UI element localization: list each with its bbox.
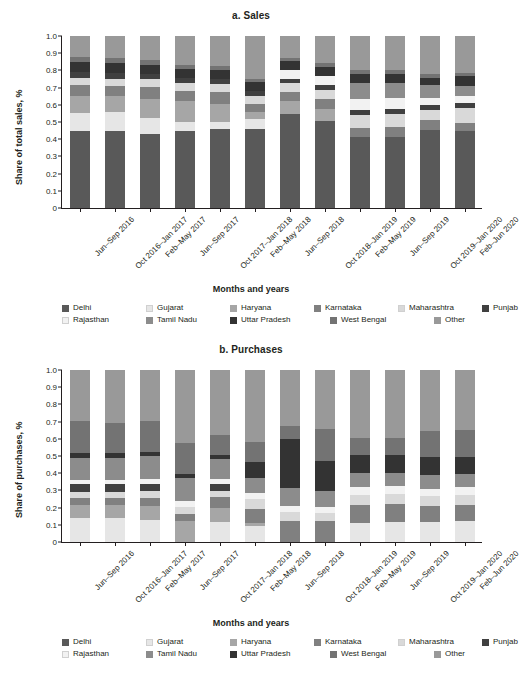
bar-segment[interactable] [175,443,195,474]
stacked-bar[interactable] [175,370,195,542]
bar-segment[interactable] [315,76,335,85]
bar-segment[interactable] [245,96,265,104]
bar-segment[interactable] [315,429,335,461]
bar-segment[interactable] [105,96,125,112]
bar-segment[interactable] [140,491,160,498]
bar-segment[interactable] [210,508,230,522]
bar-segment[interactable] [350,128,370,138]
bar-segment[interactable] [350,455,370,473]
bar-segment[interactable] [280,83,300,92]
legend-item-other[interactable]: Other [434,316,465,324]
bar-segment[interactable] [350,83,370,99]
bar-segment[interactable] [245,478,265,493]
bar-segment[interactable] [140,498,160,506]
bar-segment[interactable] [140,99,160,118]
bar-segment[interactable] [210,370,230,435]
bar-segment[interactable] [210,522,230,542]
bar-segment[interactable] [280,70,300,79]
bar-segment[interactable] [140,421,160,452]
bar-segment[interactable] [140,370,160,421]
stacked-bar[interactable] [140,36,160,208]
bar-segment[interactable] [105,498,125,505]
bar-segment[interactable] [245,129,265,208]
bar-segment[interactable] [350,473,370,487]
bar-segment[interactable] [420,130,440,208]
bar-segment[interactable] [385,83,405,98]
bar-segment[interactable] [350,505,370,523]
legend-item-karnataka[interactable]: Karnataka [314,304,361,312]
stacked-bar[interactable] [175,36,195,208]
bar-segment[interactable] [210,84,230,92]
bar-segment[interactable] [350,74,370,83]
bar-segment[interactable] [280,61,300,70]
stacked-bar[interactable] [315,370,335,542]
bar-segment[interactable] [140,134,160,208]
bar-segment[interactable] [420,110,440,120]
legend-item-delhi[interactable]: Delhi [62,304,91,312]
stacked-bar[interactable] [70,370,90,542]
bar-segment[interactable] [105,112,125,131]
bar-segment[interactable] [350,99,370,110]
bar-segment[interactable] [455,430,475,458]
stacked-bar[interactable] [350,36,370,208]
bar-segment[interactable] [385,438,405,455]
bar-segment[interactable] [280,114,300,208]
stacked-bar[interactable] [455,36,475,208]
bar-segment[interactable] [210,459,230,479]
bar-segment[interactable] [280,36,300,58]
legend-item-rajasthan[interactable]: Rajasthan [62,316,109,324]
bar-segment[interactable] [245,509,265,524]
bar-segment[interactable] [455,487,475,495]
bar-segment[interactable] [210,122,230,129]
legend-item-west-bengal[interactable]: West Bengal [330,316,386,324]
legend-item-uttar-pradesh[interactable]: Uttar Pradesh [230,316,290,324]
stacked-bar[interactable] [210,36,230,208]
bar-segment[interactable] [210,36,230,66]
bar-segment[interactable] [420,522,440,542]
bar-segment[interactable] [175,478,195,501]
bar-segment[interactable] [210,104,230,122]
bar-segment[interactable] [350,495,370,505]
bar-segment[interactable] [315,99,335,109]
bar-segment[interactable] [455,474,475,488]
bar-segment[interactable] [210,497,230,508]
stacked-bar[interactable] [280,370,300,542]
bar-segment[interactable] [105,63,125,73]
bar-segment[interactable] [140,118,160,133]
stacked-bar[interactable] [420,370,440,542]
bar-segment[interactable] [315,513,335,521]
bar-segment[interactable] [175,91,195,101]
stacked-bar[interactable] [245,370,265,542]
bar-segment[interactable] [420,475,440,489]
bar-segment[interactable] [385,36,405,70]
legend-item-uttar-pradesh[interactable]: Uttar Pradesh [230,650,290,658]
bar-segment[interactable] [455,131,475,208]
bar-segment[interactable] [175,521,195,542]
bar-segment[interactable] [420,36,440,74]
bar-segment[interactable] [105,518,125,542]
bar-segment[interactable] [315,36,335,63]
bar-segment[interactable] [385,455,405,473]
bar-segment[interactable] [420,370,440,431]
bar-segment[interactable] [175,122,195,131]
bar-segment[interactable] [385,522,405,542]
bar-segment[interactable] [210,435,230,455]
bar-segment[interactable] [175,36,195,65]
bar-segment[interactable] [280,488,300,506]
legend-item-punjab[interactable]: Punjab [482,304,518,312]
bar-segment[interactable] [210,92,230,104]
bar-segment[interactable] [245,499,265,508]
bar-segment[interactable] [245,82,265,90]
bar-segment[interactable] [350,523,370,542]
bar-segment[interactable] [350,115,370,127]
bar-segment[interactable] [70,96,90,112]
bar-segment[interactable] [420,78,440,85]
bar-segment[interactable] [245,104,265,112]
bar-segment[interactable] [70,421,90,453]
bar-segment[interactable] [420,496,440,506]
stacked-bar[interactable] [105,36,125,208]
bar-segment[interactable] [140,36,160,60]
bar-segment[interactable] [140,79,160,87]
legend-item-maharashtra[interactable]: Maharashtra [398,638,454,646]
bar-segment[interactable] [350,370,370,438]
